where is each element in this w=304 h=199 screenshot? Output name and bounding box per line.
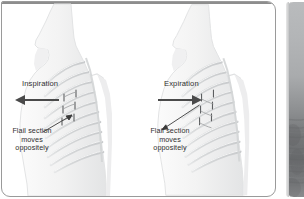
caption-line: oppositely (3, 144, 61, 153)
arrow-shaft (158, 99, 193, 101)
arrowhead-right-icon (192, 95, 202, 105)
arrow-inspiration (15, 95, 59, 105)
illustration-panel: Inspiration Expiration Flail section mov… (1, 1, 276, 197)
caption-line: oppositely (141, 144, 199, 153)
label-inspiration: Inspiration (22, 80, 58, 89)
caption-flail-expiration: Flail section moves oppositely (141, 127, 199, 153)
caption-flail-inspiration: Flail section moves oppositely (3, 127, 61, 153)
label-expiration: Expiration (164, 80, 199, 89)
screenshot-root: Inspiration Expiration Flail section mov… (0, 0, 304, 199)
radiograph-panel-edge (286, 2, 289, 197)
arrow-shaft (24, 99, 59, 101)
arrow-expiration (158, 95, 202, 105)
